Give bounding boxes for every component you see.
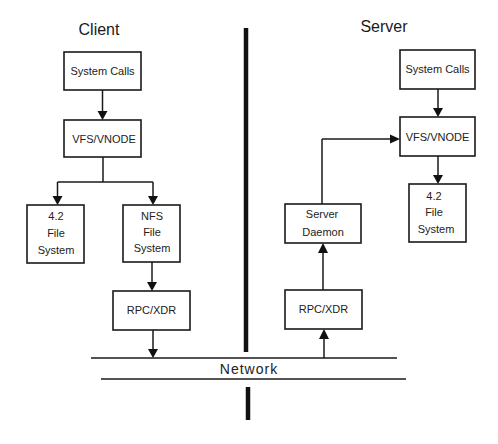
client-system-calls-label: System Calls <box>70 65 135 77</box>
client-vfs-box: VFS/VNODE <box>64 120 141 157</box>
client-42-fs-box: 4.2 File System <box>27 205 84 263</box>
server-daemon-box: Server Daemon <box>285 204 361 243</box>
nfs-architecture-diagram: Client Server Network System Calls VFS/V… <box>0 0 498 444</box>
client-nfs-label-3: System <box>134 242 171 254</box>
server-rpc-label: RPC/XDR <box>299 303 349 315</box>
client-title: Client <box>79 21 120 38</box>
server-vfs-box: VFS/VNODE <box>400 117 475 156</box>
client-42-fs-label-3: System <box>38 244 75 256</box>
arrow-up-icon <box>319 329 329 339</box>
server-42-fs-label-1: 4.2 <box>426 190 441 202</box>
client-system-calls-box: System Calls <box>64 52 141 90</box>
client-vfs-label: VFS/VNODE <box>72 133 136 145</box>
client-rpc-label: RPC/XDR <box>127 304 177 316</box>
server-system-calls-label: System Calls <box>405 63 470 75</box>
server-vfs-label: VFS/VNODE <box>406 131 470 143</box>
server-42-fs-label-2: File <box>425 206 443 218</box>
server-daemon-label-1: Server <box>306 208 339 220</box>
client-42-fs-label-2: File <box>47 227 65 239</box>
client-42-fs-label-1: 4.2 <box>48 210 63 222</box>
arrow-down-icon <box>433 175 443 184</box>
network-label: Network <box>220 361 278 377</box>
arrow-down-icon <box>148 196 158 205</box>
server-42-fs-box: 4.2 File System <box>409 184 466 242</box>
server-title: Server <box>360 18 408 35</box>
arrow-down-icon <box>148 349 158 358</box>
server-rpc-box: RPC/XDR <box>285 290 362 329</box>
arrow-right-icon <box>390 135 400 144</box>
client-nfs-fs-box: NFS File System <box>123 205 180 262</box>
server-system-calls-box: System Calls <box>400 50 475 89</box>
arrow-down-icon <box>53 196 63 205</box>
server-daemon-label-2: Daemon <box>302 226 344 238</box>
server-42-fs-label-3: System <box>418 223 455 235</box>
arrow-down-icon <box>147 282 157 291</box>
arrow-down-icon <box>433 108 443 117</box>
arrow-down-icon <box>98 111 108 120</box>
arrow-up-icon <box>318 243 328 253</box>
client-nfs-label-1: NFS <box>141 210 163 222</box>
client-rpc-box: RPC/XDR <box>113 291 190 330</box>
client-nfs-label-2: File <box>143 226 161 238</box>
